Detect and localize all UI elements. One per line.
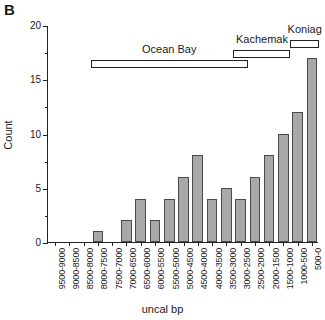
period-label-koniag: Koniag xyxy=(288,24,322,35)
bar xyxy=(164,199,175,242)
y-axis-title: Count xyxy=(2,120,14,149)
bar xyxy=(150,220,161,242)
x-axis-tick-label: 5000-4500 xyxy=(186,248,195,289)
x-axis-tick xyxy=(226,242,227,246)
y-axis-tick xyxy=(43,26,48,27)
x-axis-tick xyxy=(255,242,256,246)
y-axis-tick xyxy=(43,243,48,244)
panel-letter: B xyxy=(4,2,15,17)
x-axis-tick-labels: 9500-90009000-85008500-80008000-75007500… xyxy=(47,248,318,306)
x-axis-tick-label: 9000-8500 xyxy=(72,248,81,289)
x-axis-tick xyxy=(269,242,270,246)
y-axis-minor-tick xyxy=(45,53,48,54)
y-axis-minor-tick xyxy=(45,107,48,108)
x-axis-tick-label: 6500-6000 xyxy=(143,248,152,289)
x-axis-tick xyxy=(198,242,199,246)
bar xyxy=(93,231,104,242)
y-axis-tick-label: 5 xyxy=(35,184,41,194)
x-axis-tick-label: 3500-3000 xyxy=(229,248,238,289)
y-axis-minor-tick xyxy=(45,216,48,217)
x-axis-tick-label: 7500-7000 xyxy=(115,248,124,289)
bar xyxy=(292,112,303,242)
period-label-kachemak: Kachemak xyxy=(236,34,288,45)
period-bar-koniag xyxy=(290,40,319,48)
x-axis-tick xyxy=(184,242,185,246)
bar xyxy=(235,199,246,242)
x-axis-tick xyxy=(212,242,213,246)
x-axis-tick xyxy=(55,242,56,246)
bar xyxy=(250,177,261,242)
plot-area: 05101520Ocean BayKachemakKoniag xyxy=(47,26,318,243)
x-axis-tick-label: 500-0 xyxy=(314,248,323,270)
y-axis-tick xyxy=(43,189,48,190)
x-axis-tick-label: 2000-1500 xyxy=(272,248,281,289)
x-axis-tick xyxy=(126,242,127,246)
x-axis-tick xyxy=(141,242,142,246)
y-axis-tick-label: 0 xyxy=(35,238,41,248)
period-bar-ocean-bay xyxy=(91,60,248,68)
x-axis-tick-label: 6000-5500 xyxy=(157,248,166,289)
x-axis-tick xyxy=(298,242,299,246)
bar xyxy=(264,155,275,242)
x-axis-tick-label: 1000-500 xyxy=(300,248,309,284)
x-axis-tick xyxy=(69,242,70,246)
bar xyxy=(121,220,132,242)
x-axis-tick-label: 5500-5000 xyxy=(172,248,181,289)
x-axis-tick-label: 4000-3500 xyxy=(215,248,224,289)
bar xyxy=(278,134,289,243)
x-axis-tick xyxy=(283,242,284,246)
x-axis-title: uncal bp xyxy=(0,303,325,315)
period-bar-kachemak xyxy=(233,50,290,58)
x-axis-tick-label: 8000-7500 xyxy=(100,248,109,289)
y-axis-tick-label: 20 xyxy=(30,21,41,31)
x-axis-tick xyxy=(84,242,85,246)
x-axis-tick-label: 8500-8000 xyxy=(86,248,95,289)
x-axis-tick-label: 2500-2000 xyxy=(257,248,266,289)
bar xyxy=(135,199,146,242)
x-axis-tick-label: 7000-6500 xyxy=(129,248,138,289)
period-label-ocean-bay: Ocean Bay xyxy=(142,44,196,55)
x-axis-tick-label: 9500-9000 xyxy=(58,248,67,289)
y-axis-minor-tick xyxy=(45,162,48,163)
x-axis-tick xyxy=(241,242,242,246)
y-axis-tick-label: 15 xyxy=(30,75,41,85)
x-axis-tick-label: 4500-4000 xyxy=(200,248,209,289)
y-axis-tick-label: 10 xyxy=(30,130,41,140)
x-axis-tick-label: 1500-1000 xyxy=(286,248,295,289)
bar xyxy=(178,177,189,242)
bar xyxy=(307,58,318,242)
y-axis-tick xyxy=(43,80,48,81)
x-axis-tick xyxy=(169,242,170,246)
x-axis-tick xyxy=(112,242,113,246)
x-axis-tick xyxy=(312,242,313,246)
chart-figure: B 05101520Ocean BayKachemakKoniag 9500-9… xyxy=(0,0,325,320)
x-axis-tick xyxy=(155,242,156,246)
x-axis-tick-label: 3000-2500 xyxy=(243,248,252,289)
y-axis-tick xyxy=(43,135,48,136)
bar xyxy=(207,199,218,242)
bar xyxy=(192,155,203,242)
x-axis-tick xyxy=(98,242,99,246)
bar xyxy=(221,188,232,242)
